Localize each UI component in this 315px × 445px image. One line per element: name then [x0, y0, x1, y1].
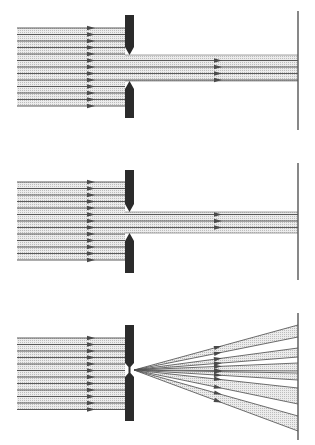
pinhole-blade [125, 325, 134, 421]
slit-blade-bottom [125, 81, 134, 118]
diffraction-diagram [0, 0, 315, 445]
transmitted-beam [125, 55, 298, 81]
slit-blade-bottom [125, 233, 134, 273]
slit-blade-top [125, 170, 134, 212]
incident-beam [17, 338, 125, 410]
diagram-canvas [0, 0, 315, 445]
transmitted-beam [125, 212, 298, 233]
slit-blade-top [125, 15, 134, 55]
arrowhead-icon [214, 390, 222, 394]
panel-narrow-slit [17, 163, 298, 280]
panel-wide-slit [17, 11, 298, 130]
panel-pinhole-slit [17, 313, 298, 440]
arrowhead-icon [214, 352, 222, 356]
